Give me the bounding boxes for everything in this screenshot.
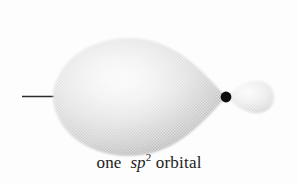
orbital-figure: one sp2 orbital	[0, 0, 298, 184]
caption-prefix: one	[96, 153, 121, 172]
figure-caption: one sp2 orbital	[0, 152, 298, 174]
nucleus-dot	[221, 92, 232, 103]
small-back-lobe	[224, 78, 278, 116]
caption-symbol: sp	[131, 153, 146, 172]
caption-suffix: orbital	[156, 153, 202, 172]
large-lobe	[48, 34, 230, 160]
